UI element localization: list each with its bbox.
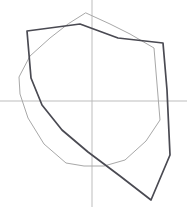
drawing-canvas	[0, 0, 187, 210]
shield-sketch-svg	[0, 0, 187, 210]
